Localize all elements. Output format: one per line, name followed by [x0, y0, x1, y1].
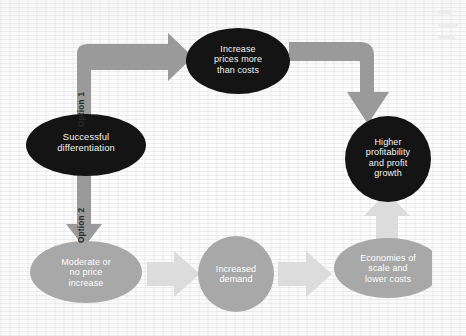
arrow-prices-to-profit-band — [289, 42, 389, 124]
margin-artifacts — [438, 10, 464, 49]
edge-label-option-1: Option 1 — [77, 92, 86, 127]
node-moderate-or-no-price-increase[interactable] — [30, 241, 142, 303]
margin-artifact-line — [438, 36, 455, 40]
figure-page: Successful differentiation Increase pric… — [0, 0, 466, 336]
node-higher-profitability[interactable] — [345, 116, 431, 202]
arrow-demand-to-economies — [278, 251, 332, 297]
node-increased-demand[interactable] — [198, 236, 274, 312]
node-successful-differentiation[interactable] — [26, 114, 146, 176]
node-economies-of-scale[interactable] — [334, 238, 432, 298]
arrow-moderate-to-demand — [147, 251, 200, 297]
diagram-canvas — [8, 6, 432, 326]
margin-artifact-line — [438, 23, 458, 27]
node-increase-prices[interactable] — [186, 28, 290, 94]
flow-diagram: Successful differentiation Increase pric… — [8, 6, 432, 326]
edge-label-option-2: Option 2 — [77, 208, 86, 243]
margin-artifact-line — [438, 10, 451, 14]
